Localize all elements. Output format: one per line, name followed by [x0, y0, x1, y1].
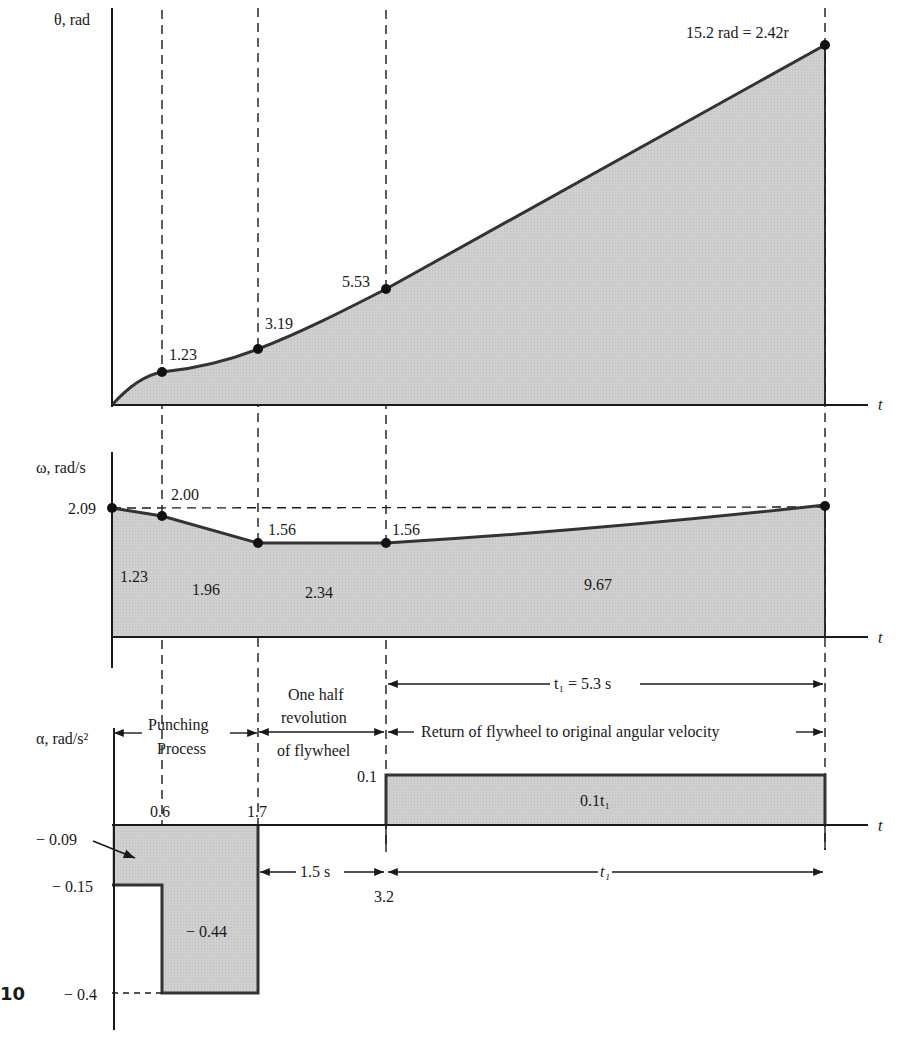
theta-area [112, 45, 825, 405]
theta-point-label: 1.23 [169, 346, 197, 363]
omega-area-label: 2.34 [305, 584, 333, 601]
motion-diagram: θ, rad t 1.23 3.19 5.53 15.2 rad = 2.42r… [0, 0, 902, 1037]
alpha-y-tick: 0.1 [357, 768, 377, 785]
omega-y-tick: 2.09 [68, 500, 96, 517]
omega-axis-label: ω, rad/s [36, 459, 86, 476]
alpha-plot [112, 728, 868, 1030]
theta-point-label: 5.53 [342, 273, 370, 290]
alpha-x-tick: 1.7 [247, 803, 267, 820]
alpha-y-tick: − 0.4 [64, 986, 97, 1003]
theta-point-label: 3.19 [265, 315, 293, 332]
omega-area-label: 1.23 [120, 568, 148, 585]
theta-t-label: t [878, 396, 883, 413]
interval-half-rev: revolution [281, 709, 347, 726]
alpha-t-label: t [878, 817, 883, 834]
t1-label: t₁ [600, 863, 610, 880]
interval-return: Return of flywheel to original angular v… [421, 723, 720, 741]
omega-point-label: 1.56 [268, 521, 296, 538]
alpha-axis-label: α, rad/s² [36, 730, 88, 747]
theta-plot [112, 8, 868, 407]
interval-half-rev: One half [288, 686, 344, 703]
omega-area [112, 505, 825, 637]
omega-plot [107, 452, 868, 668]
alpha-x-tick: 3.2 [374, 888, 394, 905]
omega-t-label: t [878, 629, 883, 646]
alpha-bar-0 [112, 825, 162, 885]
alpha-y-tick: − 0.15 [52, 878, 93, 895]
alpha-y-tick: − 0.09 [36, 831, 77, 848]
omega-point-label: 1.56 [392, 521, 420, 538]
interval-half-rev: of flywheel [277, 742, 351, 760]
alpha-x-tick: 0.6 [150, 803, 170, 820]
omega-area-label: 1.96 [192, 581, 220, 598]
interval-punching: Punching [148, 716, 208, 734]
alpha-area-label: − 0.44 [186, 923, 227, 940]
interval-punching: Process [157, 740, 206, 757]
duration-label: 1.5 s [300, 863, 330, 880]
theta-axis-label: θ, rad [54, 11, 90, 28]
theta-point-label: 15.2 rad = 2.42r [686, 24, 789, 41]
alpha-area-label: 0.1t₁ [580, 792, 610, 809]
figure-number: 10 [0, 983, 25, 1004]
t1-annotation: t₁ = 5.3 s [554, 675, 611, 692]
alpha-bar-1 [162, 825, 258, 993]
omega-point-label: 2.00 [171, 486, 199, 503]
omega-area-label: 9.67 [584, 576, 612, 593]
